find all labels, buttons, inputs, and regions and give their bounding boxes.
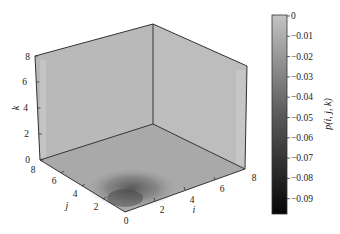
colorbar-gradient (272, 15, 287, 214)
cb-tick-8: −0.08 (291, 173, 313, 183)
cb-tick-7: −0.07 (291, 153, 313, 163)
k-tick-2: 2 (24, 129, 29, 139)
j-tick-4: 4 (73, 189, 78, 199)
i-tick-0: 0 (124, 216, 129, 226)
i-tick-8: 8 (252, 173, 257, 183)
k-tick-4: 4 (23, 103, 28, 113)
chart: 0 2 4 6 8 k 8 6 4 2 j 0 2 4 6 8 i (0, 0, 340, 234)
cb-tick-3: −0.03 (291, 72, 313, 82)
k-axis-label: k (10, 105, 21, 110)
i-tick-6: 6 (220, 184, 225, 194)
i-axis-label: i (193, 204, 196, 215)
j-tick-8: 8 (31, 165, 36, 175)
cb-tick-4: −0.04 (291, 92, 313, 102)
j-axis-label: j (64, 200, 69, 211)
k-tick-6: 6 (22, 77, 27, 87)
j-tick-2: 2 (94, 202, 99, 212)
colorbar-label: p(i, j, k) (322, 98, 334, 131)
cb-tick-1: −0.01 (291, 31, 313, 41)
colorbar: 0 −0.01 −0.02 −0.03 −0.04 −0.05 −0.06 −0… (272, 11, 334, 214)
cb-tick-2: −0.02 (291, 52, 313, 62)
cb-tick-0: 0 (291, 11, 296, 21)
cb-tick-6: −0.06 (291, 133, 313, 143)
cb-tick-5: −0.05 (291, 113, 313, 123)
i-tick-2: 2 (160, 205, 165, 215)
cb-tick-9: −0.09 (291, 194, 313, 204)
k-tick-8: 8 (25, 52, 30, 62)
k-tick-0: 0 (25, 155, 30, 165)
j-tick-6: 6 (52, 176, 57, 186)
